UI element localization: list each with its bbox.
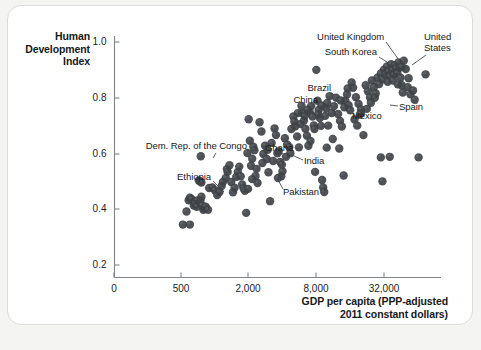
data-point-highlight [401, 58, 404, 61]
annotation-label: Ethiopia [51, 171, 211, 182]
data-point [320, 188, 328, 196]
data-point-highlight [319, 103, 322, 106]
data-point [225, 161, 233, 169]
data-point-highlight [333, 95, 336, 98]
data-point-highlight [272, 126, 275, 129]
data-point [255, 118, 263, 126]
data-point-highlight [227, 162, 230, 165]
data-point [378, 177, 386, 185]
annotation-label-line: South Korea [217, 46, 377, 57]
data-point-highlight [199, 203, 202, 206]
data-point [295, 143, 303, 151]
data-point [323, 143, 331, 151]
y-axis-title-line-1: Human [20, 30, 90, 43]
x-axis-title-line-2: 2011 constant dollars) [248, 308, 448, 321]
data-point-highlight [337, 118, 340, 121]
data-point-highlight [282, 135, 285, 138]
data-point [274, 174, 282, 182]
data-point [242, 209, 250, 217]
data-point-highlight [395, 82, 398, 85]
data-point-highlight [384, 64, 387, 67]
data-point-highlight [321, 185, 324, 188]
data-point-highlight [279, 162, 282, 165]
data-point-highlight [223, 175, 226, 178]
data-point-highlight [365, 89, 368, 92]
data-point-highlight [240, 182, 243, 185]
data-point [414, 153, 422, 161]
data-point-highlight [257, 120, 260, 123]
annotation-label-line: United [424, 31, 451, 42]
x-axis-title-line-1: GDP per capita (PPP-adjusted [248, 295, 448, 308]
data-point-highlight [280, 169, 283, 172]
data-point-highlight [353, 94, 356, 97]
data-point-highlight [369, 78, 372, 81]
data-point-highlight [406, 76, 409, 79]
data-point [329, 135, 337, 143]
data-point [377, 153, 385, 161]
data-point [306, 137, 314, 145]
data-point [314, 110, 322, 118]
data-point [310, 125, 318, 133]
data-point [230, 184, 238, 192]
data-point-highlight [303, 126, 306, 129]
data-point-highlight [338, 98, 341, 101]
data-point [343, 84, 351, 92]
y-tick-label: 0.8 [81, 92, 107, 103]
data-point-highlight [187, 222, 190, 225]
data-point-highlight [232, 185, 235, 188]
data-point-highlight [330, 136, 333, 139]
data-point-highlight [212, 188, 215, 191]
annotation-label-line: Ghana [265, 142, 293, 153]
data-point-highlight [238, 174, 241, 177]
screenshot-root: Human Development Index GDP per capita (… [0, 0, 481, 350]
annotation-label-line: China [158, 94, 318, 105]
data-point [301, 124, 309, 132]
annotation-label-line: Ethiopia [51, 171, 211, 182]
data-point-highlight [380, 179, 383, 182]
data-point [317, 101, 325, 109]
data-point-highlight [250, 156, 253, 159]
data-point-highlight [380, 77, 383, 80]
annotation-label: Dem. Rep. of the Congo [87, 140, 247, 151]
data-point-highlight [189, 196, 192, 199]
data-point-highlight [229, 179, 232, 182]
data-point-highlight [248, 163, 251, 166]
data-point-highlight [387, 154, 390, 157]
data-point-highlight [329, 110, 332, 113]
y-tick-label: 0.4 [81, 203, 107, 214]
data-point-highlight [283, 154, 286, 157]
data-point-highlight [270, 158, 273, 161]
data-point-highlight [361, 132, 364, 135]
data-point-highlight [325, 100, 328, 103]
data-point-highlight [237, 164, 240, 167]
data-point-highlight [335, 111, 338, 114]
data-point [272, 131, 280, 139]
y-axis-title-line-2: Development [20, 43, 90, 56]
data-point-highlight [363, 82, 366, 85]
y-axis-title-line-3: Index [20, 55, 90, 68]
data-point-highlight [364, 106, 367, 109]
data-point-highlight [319, 177, 322, 180]
data-point [269, 157, 277, 165]
data-point-highlight [198, 154, 201, 157]
data-point-highlight [184, 209, 187, 212]
data-point [290, 117, 298, 125]
data-point [359, 131, 367, 139]
data-point [318, 176, 326, 184]
data-point [404, 74, 412, 82]
annotation-label: Ghana [265, 142, 293, 153]
data-point-highlight [259, 129, 262, 132]
data-point [324, 121, 332, 129]
data-point-highlight [326, 123, 329, 126]
data-point-highlight [345, 86, 348, 89]
annotation-label: China [158, 94, 318, 105]
data-point-highlight [323, 113, 326, 116]
annotation-label: Spain [399, 101, 423, 112]
data-point [244, 115, 252, 123]
data-point-highlight [305, 107, 308, 110]
data-point [237, 172, 245, 180]
data-point-highlight [254, 166, 257, 169]
data-point-highlight [378, 155, 381, 158]
data-point-highlight [377, 81, 380, 84]
data-point-highlight [312, 169, 315, 172]
